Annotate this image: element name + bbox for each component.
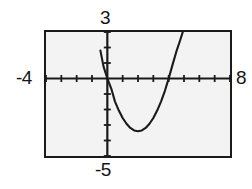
x-max-label: 8 [236, 68, 246, 87]
y-max-label: 3 [100, 8, 110, 27]
parabola-curve [100, 32, 187, 131]
curve-group [100, 32, 187, 131]
x-min-label: -4 [16, 68, 32, 87]
plot-frame [44, 30, 232, 158]
figure-canvas: 3 -4 8 -5 [0, 0, 252, 189]
axes-group [46, 32, 230, 156]
y-min-label: -5 [95, 160, 111, 179]
parabola-plot [46, 32, 230, 156]
